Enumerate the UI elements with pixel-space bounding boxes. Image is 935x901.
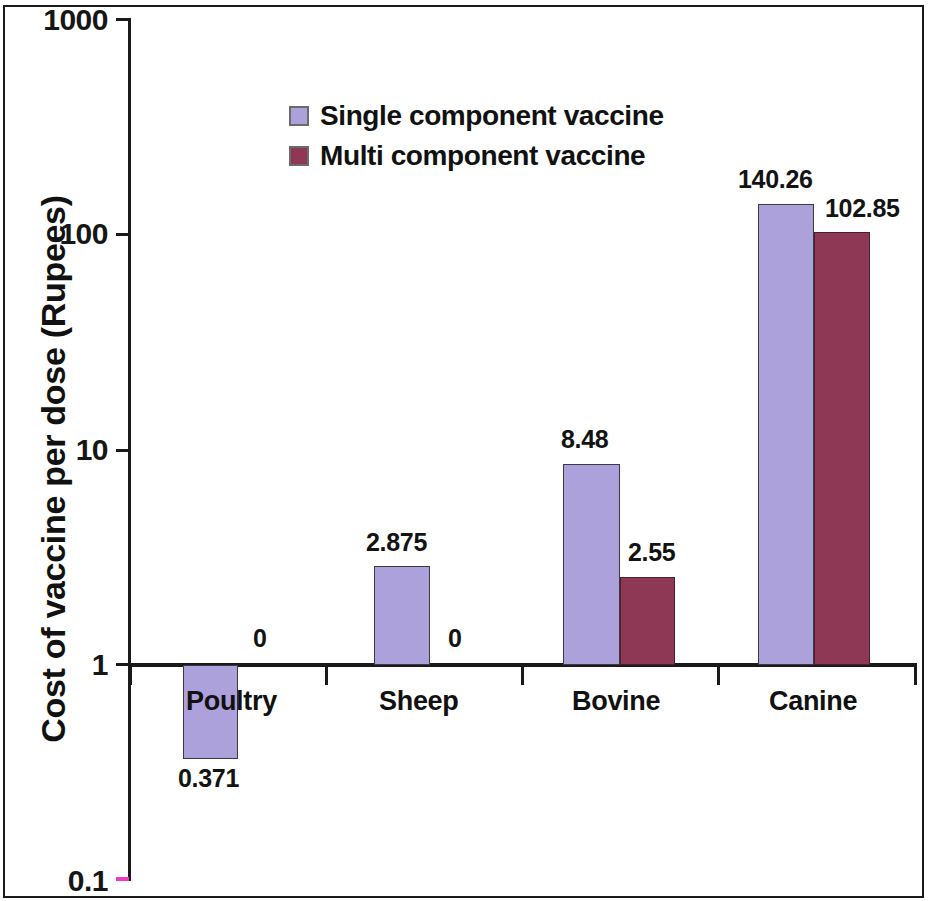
category-label-sheep: Sheep [379,688,459,715]
legend-swatch-single-icon [289,106,309,126]
y-tick-10 [116,449,129,452]
legend-item-single: Single component vaccine [289,99,664,133]
value-label-canine-single: 140.26 [738,167,813,192]
x-tick-3 [717,667,720,685]
value-label-canine-multi: 102.85 [825,196,900,221]
category-label-poultry: Poultry [186,688,277,715]
category-label-canine: Canine [769,688,857,715]
x-tick-2 [521,667,524,685]
legend-swatch-multi-icon [289,146,309,166]
value-label-bovine-multi: 2.55 [628,540,675,565]
y-axis-title: Cost of vaccine per dose (Rupees) [36,169,70,769]
x-tick-0 [129,667,132,685]
value-label-bovine-single: 8.48 [561,427,608,452]
y-tick-1000 [116,18,129,21]
y-tick-label-0-1: 0.1 [0,866,108,896]
value-label-poultry-multi: 0 [253,626,267,651]
legend-label-multi: Multi component vaccine [320,142,645,170]
value-label-poultry-single: 0.371 [178,766,239,791]
value-label-sheep-single: 2.875 [366,530,427,555]
x-tick-4 [914,667,917,685]
legend-item-multi: Multi component vaccine [289,139,664,173]
bar-bovine-single [563,464,620,665]
y-tick-100 [116,233,129,236]
category-label-bovine: Bovine [572,688,660,715]
x-tick-1 [325,667,328,685]
legend-label-single: Single component vaccine [320,102,664,130]
value-label-sheep-multi: 0 [448,626,462,651]
bar-canine-multi [814,232,870,665]
y-tick-0-1 [116,877,129,881]
y-tick-1 [116,663,129,666]
bar-canine-single [758,204,814,665]
chart-legend: Single component vaccine Multi component… [289,99,664,179]
y-tick-label-1000: 1000 [0,5,108,35]
bar-chart: 1000 100 10 1 0.1 Cost of vaccine per do… [0,0,935,901]
bar-bovine-multi [620,577,675,665]
bar-sheep-single [374,566,430,665]
